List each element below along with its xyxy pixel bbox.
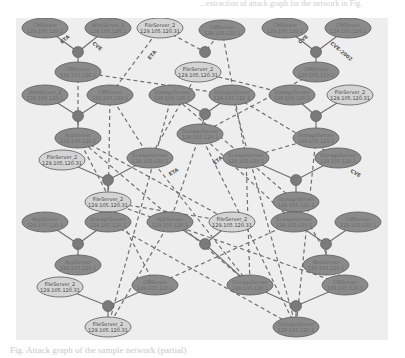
graph-node-webserver-2[interactable]: WebServer_2129.105.120.1: [22, 85, 68, 105]
graph-node-appserver[interactable]: AppServer129.105.120.1: [147, 212, 193, 232]
node-address: 129.105.120.1: [278, 327, 315, 333]
graph-node-storageserver[interactable]: StorageServer129.105.120.1: [227, 275, 273, 295]
node-address: 129.105.120.1: [276, 222, 313, 228]
edge-label: ETA: [212, 154, 224, 165]
node-address: 129.105.120.1: [137, 285, 174, 291]
node-address: 129.105.120.1: [327, 285, 364, 291]
node-address: 129.105.120.1: [182, 134, 219, 140]
node-address: 129.105.120.1: [90, 28, 127, 34]
junction-node[interactable]: [73, 47, 84, 58]
edge: [108, 222, 296, 327]
node-address: 129.105.120.1: [204, 30, 241, 36]
junction-node[interactable]: [291, 175, 302, 186]
node-address: 129.105.120.31: [212, 222, 252, 228]
node-address: 129.105.120.1: [232, 285, 269, 291]
graph-node-fileserver-2[interactable]: FileServer_2129.105.120.31: [209, 212, 255, 232]
node-address: 129.105.120.1: [132, 158, 169, 164]
graph-node-storageserver[interactable]: StorageServer129.105.120.1: [127, 148, 173, 168]
graph-node-storageserver[interactable]: StorageServer129.105.120.1: [149, 85, 195, 105]
edge: [170, 134, 200, 222]
node-address: 129.105.120.31: [88, 202, 128, 208]
junction-node[interactable]: [73, 239, 84, 250]
junction-node[interactable]: [73, 111, 84, 122]
node-address: 129.105.120.1: [60, 72, 97, 78]
node-address: 129.105.120.1: [228, 158, 265, 164]
junction-node[interactable]: [200, 109, 211, 120]
graph-node-storageserver[interactable]: StorageServer129.105.120.1: [293, 128, 339, 148]
graph-node-cmserver[interactable]: CMServer129.105.120.1: [132, 275, 178, 295]
node-address: 129.105.120.1: [27, 28, 64, 34]
node-address: 129.105.120.31: [330, 95, 370, 101]
junction-node[interactable]: [200, 47, 211, 58]
node-address: 129.105.120.31: [88, 327, 128, 333]
graph-node-storageserver[interactable]: StorageServer129.105.120.1: [223, 148, 269, 168]
graph-node-appserver[interactable]: AppServer129.105.120.1: [55, 255, 101, 275]
page-top-text: ...extraction of attack graph for the ne…: [200, 0, 405, 8]
nodes-layer: CMServer129.105.120.1WebServer_2129.105.…: [22, 18, 381, 337]
graph-node-storageserver[interactable]: StorageServer129.105.120.1: [315, 148, 361, 168]
attack-graph-figure: ETACVEETACVECVE-2002ETAETACVE CMServer12…: [16, 18, 388, 340]
node-address: 129.105.120.1: [298, 138, 335, 144]
graph-node-storageserver[interactable]: StorageServer129.105.120.1: [273, 317, 319, 337]
edge-label: CVE: [350, 168, 363, 179]
graph-node-cmserver[interactable]: CMServer129.105.120.1: [262, 18, 308, 38]
graph-node-fileserver-2[interactable]: FileServer_2129.105.120.31: [39, 150, 85, 170]
graph-node-cmserver[interactable]: CMServer129.105.120.1: [87, 85, 133, 105]
graph-node-storageserver[interactable]: StorageServer129.105.120.1: [85, 212, 131, 232]
graph-node-cmserver[interactable]: CMServer129.105.120.1: [55, 62, 101, 82]
graph-node-fileserver-2[interactable]: FileServer_2129.105.120.31: [327, 85, 373, 105]
graph-node-cmserver[interactable]: CMServer129.105.120.1: [322, 275, 368, 295]
node-address: 129.105.120.1: [274, 95, 311, 101]
graph-node-cmserver[interactable]: CMServer129.105.120.1: [293, 62, 339, 82]
edge-label: ETA: [146, 49, 157, 61]
graph-node-storageserver[interactable]: StorageServer129.105.120.1: [271, 212, 317, 232]
junction-node[interactable]: [311, 47, 322, 58]
node-address: 129.105.120.1: [320, 158, 357, 164]
junction-node[interactable]: [321, 239, 332, 250]
node-address: 129.105.120.1: [298, 72, 335, 78]
graph-node-fileserver-2[interactable]: FileServer_2129.105.120.31: [85, 192, 131, 212]
junction-node[interactable]: [103, 175, 114, 186]
node-address: 129.105.120.31: [40, 287, 80, 293]
edge-label: CVE: [91, 40, 104, 52]
graph-node-appserver[interactable]: AppServer129.105.120.1: [55, 128, 101, 148]
graph-node-fileserver-2[interactable]: FileServer_2129.105.120.31: [85, 317, 131, 337]
graph-node-cmserver[interactable]: CMServer129.105.120.1: [335, 212, 381, 232]
node-address: 129.105.120.1: [60, 138, 97, 144]
junction-node[interactable]: [311, 111, 322, 122]
node-address: 129.105.120.1: [278, 202, 315, 208]
junction-node[interactable]: [200, 239, 211, 250]
graph-node-cmserver[interactable]: CMServer129.105.120.1: [325, 18, 371, 38]
graph-node-fileserver-2[interactable]: FileServer_2129.105.120.31: [137, 18, 183, 38]
junction-node[interactable]: [103, 301, 114, 312]
graph-node-storageserver[interactable]: StorageServer129.105.120.1: [209, 85, 255, 105]
edge-label: ETA: [168, 166, 180, 176]
attack-graph-canvas: ETACVEETACVECVE-2002ETAETACVE CMServer12…: [16, 18, 388, 340]
graph-node-cmserver[interactable]: CMServer129.105.120.1: [199, 20, 245, 40]
edge: [110, 28, 160, 95]
node-address: 129.105.120.1: [152, 222, 189, 228]
graph-node-cmserver[interactable]: CMServer129.105.120.1: [22, 18, 68, 38]
node-address: 129.105.120.1: [340, 222, 377, 228]
graph-node-webserver[interactable]: WebServer129.105.120.1: [303, 255, 349, 275]
node-address: 129.105.120.1: [92, 95, 129, 101]
node-address: 129.105.120.1: [267, 28, 304, 34]
graph-node-storageserver[interactable]: StorageServer129.105.120.1: [269, 85, 315, 105]
node-address: 129.105.120.1: [90, 222, 127, 228]
graph-node-storageserver[interactable]: StorageServer129.105.120.1: [177, 124, 223, 144]
graph-node-webserver-2[interactable]: WebServer_2129.105.120.1: [85, 18, 131, 38]
node-address: 129.105.120.1: [27, 95, 64, 101]
edge: [172, 95, 296, 202]
node-address: 129.105.120.1: [308, 265, 345, 271]
graph-node-fileserver-2[interactable]: FileServer_2129.105.120.31: [175, 62, 221, 82]
node-address: 129.105.120.1: [60, 265, 97, 271]
graph-node-fileserver-2[interactable]: FileServer_2129.105.120.31: [37, 277, 83, 297]
junction-node[interactable]: [291, 301, 302, 312]
node-address: 129.105.120.1: [154, 95, 191, 101]
node-address: 129.105.120.31: [140, 28, 180, 34]
graph-node-appserver[interactable]: AppServer129.105.120.1: [22, 212, 68, 232]
node-address: 129.105.120.31: [42, 160, 82, 166]
node-address: 129.105.120.1: [330, 28, 367, 34]
graph-node-storageserver[interactable]: StorageServer129.105.120.1: [273, 192, 319, 212]
edge-label: CVE-2002: [329, 40, 354, 62]
